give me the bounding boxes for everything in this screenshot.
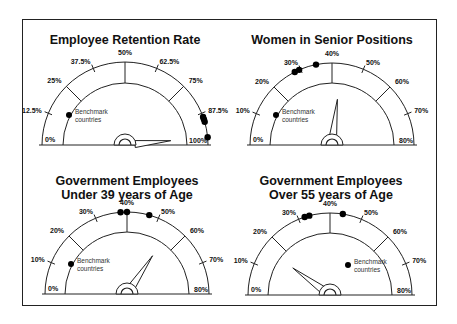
legend-label: countries bbox=[75, 116, 102, 123]
gauge-tick-label: 30% bbox=[282, 209, 297, 216]
gauge-tick-label: 40% bbox=[120, 199, 135, 206]
gauge-tick-label: 50% bbox=[364, 209, 379, 216]
gauge-tick-label: 60% bbox=[395, 78, 410, 85]
legend-label: Benchmark bbox=[77, 257, 111, 264]
gauge-tick-label: 0% bbox=[45, 136, 56, 143]
gauge-tick-label: 10% bbox=[236, 107, 251, 114]
gauge-tick-label: 10% bbox=[234, 257, 249, 264]
gauge-tick-label: 75% bbox=[189, 77, 204, 84]
benchmark-dot bbox=[202, 119, 208, 125]
gauge-needle bbox=[293, 268, 324, 292]
benchmark-dot bbox=[204, 134, 210, 140]
gauge-tick-label: 37.5% bbox=[71, 58, 92, 65]
benchmark-dot bbox=[313, 61, 319, 67]
gauge-tick-label: 62.5% bbox=[159, 58, 180, 65]
benchmark-dot bbox=[146, 212, 152, 218]
legend-dot bbox=[273, 112, 279, 118]
gauge-major-tick bbox=[272, 237, 286, 251]
gauge-needle bbox=[135, 141, 171, 148]
benchmark-dot bbox=[117, 209, 123, 215]
gauge-major-tick bbox=[274, 87, 288, 101]
legend-dot bbox=[68, 261, 74, 267]
gauge-tick-label: 25% bbox=[47, 77, 62, 84]
gauge-tick-label: 30% bbox=[79, 208, 94, 215]
gauge-major-tick bbox=[374, 237, 388, 251]
gauge-major-tick bbox=[171, 236, 185, 250]
gauge-tick-label: 20% bbox=[253, 228, 268, 235]
gauge-tick-label: 50% bbox=[366, 59, 381, 66]
gauge-tick-label: 80% bbox=[194, 286, 209, 293]
legend-label: countries bbox=[282, 116, 309, 123]
legend-label: countries bbox=[77, 265, 104, 272]
gauge-major-tick bbox=[66, 86, 81, 101]
gauge-tick-label: 20% bbox=[50, 227, 65, 234]
legend-dot bbox=[66, 112, 72, 118]
gauge-tick-label: 60% bbox=[393, 228, 408, 235]
gauge-tick-label: 80% bbox=[399, 137, 414, 144]
gauge-tick-label: 87.5% bbox=[208, 107, 229, 114]
gauge-tick-label: 70% bbox=[414, 107, 429, 114]
gauge-tick-label: 50% bbox=[118, 49, 133, 56]
gauge-tick-label: 30% bbox=[284, 59, 299, 66]
legend-label: countries bbox=[354, 266, 381, 273]
legend-label: Benchmark bbox=[354, 258, 388, 265]
gauge-needle bbox=[130, 256, 153, 288]
gauge-tick-label: 50% bbox=[161, 208, 176, 215]
gauge-tick-label: 20% bbox=[255, 78, 270, 85]
gauge-tick-label: 0% bbox=[48, 285, 59, 292]
benchmark-dot bbox=[340, 211, 346, 217]
legend-dot bbox=[345, 262, 351, 268]
gauge-tick-label: 0% bbox=[251, 286, 262, 293]
gauge-tick-label: 80% bbox=[397, 287, 412, 294]
gauges-canvas: 0%12.5%25%37.5%50%62.5%75%87.5%100%Bench… bbox=[0, 0, 457, 324]
benchmark-dot bbox=[124, 209, 130, 215]
gauge-tick-label: 40% bbox=[325, 50, 340, 57]
gauge-tick-label: 12.5% bbox=[22, 107, 43, 114]
gauge-tick-label: 10% bbox=[31, 256, 46, 263]
gauge-tick-label: 70% bbox=[412, 257, 427, 264]
benchmark-dot bbox=[296, 67, 302, 73]
gauge-tick-label: 60% bbox=[190, 227, 205, 234]
legend-label: Benchmark bbox=[282, 108, 316, 115]
gauge-major-tick bbox=[169, 86, 184, 101]
gauge-tick-label: 40% bbox=[323, 200, 338, 207]
gauge-major-tick bbox=[376, 87, 390, 101]
gauge-major-tick bbox=[69, 236, 83, 250]
legend-label: Benchmark bbox=[75, 108, 109, 115]
gauge-tick-label: 70% bbox=[209, 256, 224, 263]
benchmark-dot bbox=[306, 212, 312, 218]
gauge-needle bbox=[330, 99, 338, 135]
gauge-tick-label: 0% bbox=[253, 136, 264, 143]
